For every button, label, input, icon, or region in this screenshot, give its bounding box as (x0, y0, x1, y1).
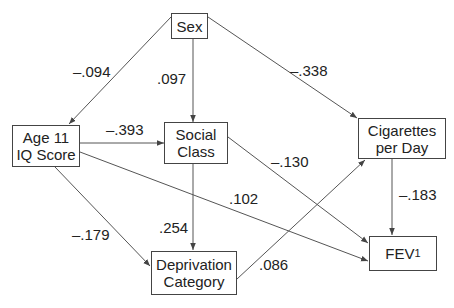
node-cigs-line2: per Day (376, 139, 429, 156)
coef-iq-social: –.393 (106, 121, 144, 138)
node-deprivation-category: Deprivation Category (151, 251, 237, 295)
node-cigs-line1: Cigarettes (368, 122, 436, 139)
node-depriv-line2: Category (164, 273, 225, 290)
edge-sex-cigs (208, 17, 357, 118)
coef-iq-fev: .102 (229, 190, 258, 207)
coef-cigs-fev: –.183 (399, 186, 437, 203)
node-sex-label: Sex (177, 18, 203, 35)
node-fev-sub: 1 (415, 245, 421, 262)
coef-sex-social: .097 (157, 70, 186, 87)
coef-social-depriv: .254 (159, 219, 188, 236)
node-sex: Sex (171, 13, 208, 39)
node-iq-line2: IQ Score (16, 146, 75, 163)
coef-sex-iq: –.094 (73, 63, 111, 80)
coef-sex-cigs: –.338 (290, 62, 328, 79)
node-iq-line1: Age 11 (23, 129, 69, 146)
coef-iq-depriv: –.179 (72, 226, 110, 243)
node-fev1: FEV1 (369, 236, 437, 271)
node-depriv-line1: Deprivation (156, 256, 232, 273)
node-age11-iq-score: Age 11 IQ Score (12, 125, 80, 167)
node-social-line1: Social (176, 126, 217, 143)
node-social-line2: Class (177, 143, 215, 160)
node-cigarettes-per-day: Cigarettes per Day (358, 118, 446, 159)
coef-depriv-cigs: .086 (259, 256, 288, 273)
edge-iq-fev (80, 152, 368, 261)
node-fev-main: FEV (385, 245, 414, 262)
edge-iq-depriv (55, 167, 150, 266)
edge-depriv-cigs (237, 160, 365, 279)
coef-social-fev: –.130 (271, 153, 309, 170)
node-social-class: Social Class (164, 122, 228, 164)
